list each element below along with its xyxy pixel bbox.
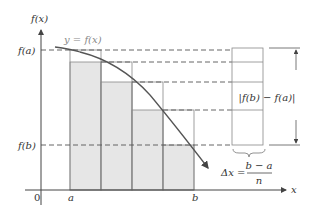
difference-label: |f(b) − f(a)| bbox=[239, 92, 296, 104]
b-label: b bbox=[192, 192, 198, 203]
a-label: a bbox=[68, 192, 74, 203]
delta-denominator: n bbox=[256, 175, 262, 186]
delta-lhs: Δx = bbox=[220, 167, 245, 178]
y-axis-label: f(x) bbox=[30, 13, 48, 24]
fa-label: f(a) bbox=[17, 45, 36, 56]
brace bbox=[233, 149, 265, 157]
curve-label: y = f(x) bbox=[63, 34, 102, 45]
origin-label: 0 bbox=[34, 192, 40, 203]
delta-numerator: b − a bbox=[245, 160, 272, 171]
fb-label: f(b) bbox=[17, 140, 36, 151]
x-axis-label: x bbox=[291, 184, 297, 195]
